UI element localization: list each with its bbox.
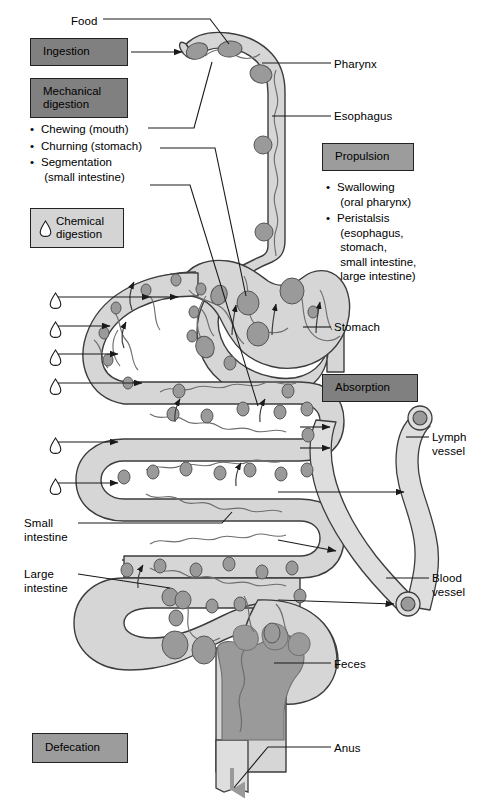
label-feces: Feces <box>334 658 366 672</box>
droplet-icon <box>39 220 52 237</box>
bullet-item: Churning (stomach) <box>30 139 142 154</box>
process-box-defecation[interactable]: Defecation <box>32 733 128 763</box>
label-blood-vessel: Blood vessel <box>432 572 465 599</box>
label-esophagus: Esophagus <box>334 110 392 124</box>
lymph-vessel-cap-inner <box>413 411 427 425</box>
leader-chewing <box>148 62 212 128</box>
process-box-mechanical[interactable]: Mechanical digestion <box>30 78 128 118</box>
digestive-system-illustration <box>0 0 491 804</box>
droplet-1 <box>41 292 62 313</box>
droplet-2 <box>41 321 62 342</box>
process-box-label-chemical: Chemical digestion <box>52 215 104 242</box>
process-box-label-defecation: Defecation <box>33 741 100 755</box>
process-box-propulsion[interactable]: Propulsion <box>322 143 414 171</box>
propulsion-bullets: Swallowing (oral pharynx)Peristalsis (es… <box>326 180 416 286</box>
label-lymph-vessel: Lymph vessel <box>432 431 467 458</box>
label-small-intestine: Small intestine <box>24 517 68 544</box>
diagram-canvas: IngestionMechanical digestion Chemical d… <box>0 0 491 804</box>
process-box-label-mechanical: Mechanical digestion <box>31 85 101 112</box>
bullet-item: Swallowing (oral pharynx) <box>326 180 416 209</box>
process-box-absorption[interactable]: Absorption <box>322 374 418 402</box>
droplet-icon <box>49 321 62 338</box>
droplet-icon <box>49 437 62 454</box>
droplet-icon <box>49 349 62 366</box>
droplet-icon <box>49 478 62 495</box>
label-stomach: Stomach <box>334 321 380 335</box>
feces-lobe-a <box>233 625 258 650</box>
feces-lobe-c <box>288 633 310 656</box>
label-large-intestine: Large intestine <box>24 568 68 595</box>
droplet-6 <box>41 478 62 499</box>
process-box-ingestion[interactable]: Ingestion <box>30 38 128 66</box>
droplet-3 <box>41 349 62 370</box>
label-pharynx: Pharynx <box>334 58 377 72</box>
droplet-icon <box>49 378 62 395</box>
label-food: Food <box>71 15 98 29</box>
droplet-icon <box>49 292 62 309</box>
bullet-item: Peristalsis (esophagus, stomach, small i… <box>326 211 416 284</box>
droplet-4 <box>41 378 62 399</box>
blood-vessel-cap-inner <box>401 597 415 611</box>
label-anus: Anus <box>334 742 361 756</box>
process-box-label-absorption: Absorption <box>323 381 390 395</box>
mechanical-bullets: Chewing (mouth)Churning (stomach)Segment… <box>30 122 142 186</box>
process-box-label-ingestion: Ingestion <box>31 45 90 59</box>
droplet-5 <box>41 437 62 458</box>
process-box-chemical[interactable]: Chemical digestion <box>30 208 124 248</box>
bullet-item: Chewing (mouth) <box>30 122 142 137</box>
bullet-item: Segmentation (small intestine) <box>30 155 142 184</box>
process-box-label-propulsion: Propulsion <box>323 150 389 164</box>
